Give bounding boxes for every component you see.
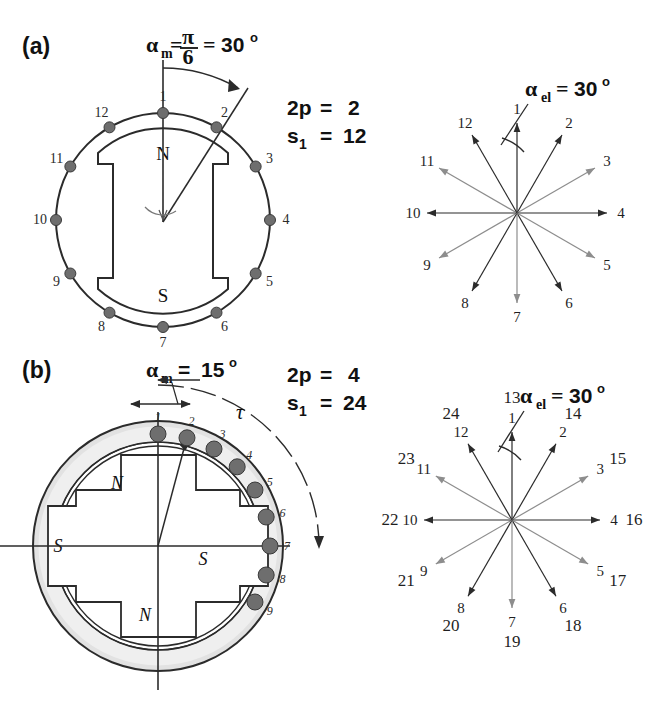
slot-b-label-5: 5 bbox=[267, 475, 273, 489]
slot-a-label-5: 5 bbox=[266, 274, 273, 289]
star-a-arrowhead-12 bbox=[472, 135, 479, 144]
slot-b-label-7: 7 bbox=[284, 539, 291, 553]
star-a-label-1: 1 bbox=[513, 101, 521, 117]
star-a-vector-9[interactable] bbox=[439, 213, 517, 258]
star-a-label-10: 10 bbox=[406, 205, 421, 221]
slot-b-2[interactable] bbox=[179, 430, 195, 446]
star-b-alpha-equals: = bbox=[551, 383, 564, 408]
slot-a-8[interactable] bbox=[104, 307, 115, 318]
star-b-vector-8[interactable] bbox=[468, 520, 512, 596]
star-a-vector-6[interactable] bbox=[517, 213, 562, 291]
pole-mark-b-n-bottom: N bbox=[138, 605, 152, 625]
slot-b-label-2: 2 bbox=[188, 414, 194, 428]
star-b-label-4: 4 bbox=[610, 512, 618, 528]
pole-mark-b-s-right: S bbox=[199, 549, 208, 569]
slot-a-1[interactable] bbox=[158, 108, 169, 119]
star-alpha-equals: = bbox=[556, 76, 569, 101]
star-b-label-13: 13 bbox=[504, 388, 521, 407]
slot-b-label-3: 3 bbox=[219, 427, 226, 441]
star-a-vector-12[interactable] bbox=[472, 135, 517, 213]
panel-a-star-diagram: α el = 30 o 123456789101112 bbox=[406, 74, 626, 325]
star-b-vector-3[interactable] bbox=[512, 476, 588, 520]
star-b-label-6: 6 bbox=[559, 600, 567, 616]
star-a-arrowhead-2 bbox=[555, 135, 562, 144]
star-a-arrowhead-11 bbox=[439, 168, 448, 175]
slot-b-8[interactable] bbox=[258, 567, 274, 583]
star-a-label-6: 6 bbox=[565, 295, 573, 311]
star-b-label-3: 3 bbox=[597, 461, 605, 477]
slot-b-6[interactable] bbox=[258, 509, 274, 525]
star-vectors-a bbox=[427, 123, 607, 303]
star-b-arrowhead-12 bbox=[468, 444, 475, 453]
spec-b-1-symbol: s bbox=[287, 391, 299, 414]
slot-a-5[interactable] bbox=[250, 268, 261, 279]
slot-a-12[interactable] bbox=[104, 122, 115, 133]
alpha-b-symbol: α bbox=[146, 357, 159, 382]
star-angle-arc-b bbox=[499, 446, 521, 460]
spec-0-symbol: 2p bbox=[287, 96, 312, 119]
slot-a-7[interactable] bbox=[158, 322, 169, 333]
star-b-arrowhead-7 bbox=[509, 599, 516, 608]
star-a-label-12: 12 bbox=[458, 115, 473, 131]
star-a-arrowhead-5 bbox=[585, 251, 594, 258]
star-b-arrowhead-9 bbox=[436, 557, 445, 564]
star-b-alpha-symbol: α bbox=[520, 383, 533, 408]
slot-b-4[interactable] bbox=[229, 459, 245, 475]
panel-a-tag: (a) bbox=[22, 33, 50, 59]
spec-1-subscript: 1 bbox=[299, 136, 307, 152]
star-a-vector-2[interactable] bbox=[517, 135, 562, 213]
star-b-arrowhead-3 bbox=[579, 476, 588, 483]
spec-b-1-value: 24 bbox=[343, 391, 367, 414]
spec-1-value: 12 bbox=[343, 124, 366, 147]
panel-a-star-alpha-el-label: α el = 30 o bbox=[525, 74, 610, 105]
star-a-vector-3[interactable] bbox=[517, 168, 595, 213]
star-a-arrowhead-8 bbox=[472, 281, 479, 290]
alpha-m-arc bbox=[163, 68, 238, 88]
star-a-vector-8[interactable] bbox=[472, 213, 517, 291]
panel-b: (b) α m = 15 o 2p = 4 s 1 = 24 bbox=[0, 340, 645, 703]
star-b-label-1: 1 bbox=[508, 410, 516, 426]
star-b-vector-12[interactable] bbox=[468, 444, 512, 520]
spec-0-value: 2 bbox=[348, 96, 360, 119]
star-b-arrowhead-2 bbox=[549, 444, 556, 453]
slot-a-3[interactable] bbox=[250, 161, 261, 172]
star-b-arrowhead-4 bbox=[591, 517, 600, 524]
slot-b-1[interactable] bbox=[150, 426, 166, 442]
panel-a-machine-cross-section: N S 123456789101112 bbox=[33, 60, 290, 350]
panel-b-svg: (b) α m = 15 o 2p = 4 s 1 = 24 bbox=[0, 340, 645, 703]
star-b-label-20: 20 bbox=[443, 616, 460, 635]
slot-b-5[interactable] bbox=[247, 482, 263, 498]
slot-a-10[interactable] bbox=[51, 215, 62, 226]
pole-pitch-tau-label: τ bbox=[236, 400, 245, 424]
star-b-label-23: 23 bbox=[398, 449, 415, 468]
star-a-vector-11[interactable] bbox=[439, 168, 517, 213]
slot-a-label-4: 4 bbox=[283, 212, 290, 227]
star-b-label-5: 5 bbox=[597, 563, 605, 579]
slot-b-9[interactable] bbox=[247, 594, 263, 610]
spec-b-0-equals: = bbox=[320, 363, 332, 386]
star-b-label-7: 7 bbox=[508, 614, 516, 630]
star-b-vector-11[interactable] bbox=[436, 476, 512, 520]
slot-a-6[interactable] bbox=[211, 307, 222, 318]
star-b-vector-6[interactable] bbox=[512, 520, 556, 596]
degree-b-icon: o bbox=[229, 355, 237, 370]
alpha-b-value: 15 bbox=[201, 358, 225, 381]
panel-b-specs: 2p = 4 s 1 = 24 bbox=[287, 363, 367, 419]
star-a-arrowhead-7 bbox=[514, 294, 521, 303]
star-a-vector-5[interactable] bbox=[517, 213, 595, 258]
star-b-vector-9[interactable] bbox=[436, 520, 512, 564]
slot-a-2[interactable] bbox=[211, 122, 222, 133]
star-b-degree-icon: o bbox=[597, 381, 605, 396]
slot-b-3[interactable] bbox=[206, 441, 222, 457]
alpha-equals-2: = bbox=[203, 32, 216, 57]
slot-a-11[interactable] bbox=[65, 161, 76, 172]
star-b-label-19: 19 bbox=[504, 632, 521, 651]
star-b-vector-5[interactable] bbox=[512, 520, 588, 564]
slot-b-7[interactable] bbox=[262, 538, 278, 554]
star-b-vector-2[interactable] bbox=[512, 444, 556, 520]
pole-mark-s: S bbox=[158, 285, 169, 306]
slot-a-4[interactable] bbox=[265, 215, 276, 226]
slot-a-9[interactable] bbox=[65, 268, 76, 279]
star-a-arrowhead-10 bbox=[427, 210, 436, 217]
spec-b-0-value: 4 bbox=[348, 363, 360, 386]
